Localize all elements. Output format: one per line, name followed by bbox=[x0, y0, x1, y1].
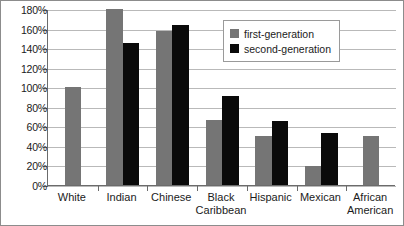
y-axis-tick-label: 180% bbox=[5, 4, 47, 16]
bar-second-generation bbox=[321, 133, 338, 185]
bar-first-generation bbox=[65, 87, 82, 185]
gridline bbox=[48, 49, 396, 50]
bar-second-generation bbox=[222, 96, 239, 185]
x-axis-tick-label-line: Chinese bbox=[151, 191, 191, 203]
bar-first-generation bbox=[305, 166, 322, 185]
bar-first-generation bbox=[255, 136, 272, 185]
legend-swatch-second-generation bbox=[230, 44, 239, 53]
legend-item-first-generation: first-generation bbox=[230, 26, 331, 41]
x-axis-tick-label: AfricanAmerican bbox=[337, 191, 403, 217]
y-axis-tick-label: 60% bbox=[5, 121, 47, 133]
bar-chart: 0%20%40%60%80%100%120%140%160%180% White… bbox=[0, 0, 404, 226]
y-axis-tick-label: 120% bbox=[5, 63, 47, 75]
legend-label-first-generation: first-generation bbox=[244, 28, 314, 40]
x-axis-tick-label-line: White bbox=[58, 191, 86, 203]
y-axis-tick-label: 20% bbox=[5, 160, 47, 172]
y-axis-tick-label: 100% bbox=[5, 82, 47, 94]
x-axis-tick-label-line: Caribbean bbox=[188, 204, 254, 217]
x-axis-tick-label-line: African bbox=[353, 191, 387, 203]
x-axis-tick-label-line: Indian bbox=[107, 191, 137, 203]
bar-first-generation bbox=[206, 120, 223, 185]
bar-second-generation bbox=[272, 121, 289, 185]
plot-area bbox=[47, 10, 395, 186]
legend-item-second-generation: second-generation bbox=[230, 41, 331, 56]
x-axis-tick-label-line: Hispanic bbox=[250, 191, 292, 203]
legend-label-second-generation: second-generation bbox=[244, 43, 331, 55]
bar-second-generation bbox=[123, 43, 140, 185]
x-axis-tick-label-line: American bbox=[337, 204, 403, 217]
x-axis-tick-label-line: Black bbox=[208, 191, 235, 203]
gridline bbox=[48, 30, 396, 31]
bar-first-generation bbox=[363, 136, 380, 185]
legend-swatch-first-generation bbox=[230, 29, 239, 38]
bar-second-generation bbox=[172, 25, 189, 185]
y-axis-tick-label: 80% bbox=[5, 102, 47, 114]
bar-first-generation bbox=[156, 31, 173, 185]
y-axis-tick-label: 40% bbox=[5, 141, 47, 153]
gridline bbox=[48, 69, 396, 70]
gridline bbox=[48, 88, 396, 89]
gridline bbox=[48, 186, 396, 187]
x-axis-tick-label-line: Mexican bbox=[300, 191, 341, 203]
y-axis-tick-label: 140% bbox=[5, 43, 47, 55]
bar-first-generation bbox=[106, 9, 123, 185]
y-axis-tick-label: 160% bbox=[5, 24, 47, 36]
chart-legend: first-generation second-generation bbox=[223, 20, 340, 62]
gridline bbox=[48, 10, 396, 11]
